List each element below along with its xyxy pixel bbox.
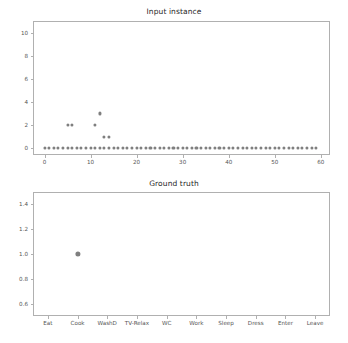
data-point bbox=[282, 147, 285, 150]
data-point bbox=[130, 147, 133, 150]
panel-ground-truth: Ground truth 0.60.81.01.21.4EatCookWashD… bbox=[0, 172, 348, 343]
x-tick-label: Sleep bbox=[218, 320, 234, 326]
x-tick-mark bbox=[285, 316, 286, 319]
y-tick-mark bbox=[31, 204, 34, 205]
data-point bbox=[126, 147, 129, 150]
data-point bbox=[176, 147, 179, 150]
data-point bbox=[301, 147, 304, 150]
data-point bbox=[167, 147, 170, 150]
data-point bbox=[144, 147, 147, 150]
x-tick-label: Cook bbox=[71, 320, 85, 326]
data-point bbox=[195, 147, 198, 150]
data-point bbox=[213, 147, 216, 150]
x-tick-mark bbox=[167, 316, 168, 319]
data-point bbox=[315, 147, 318, 150]
x-tick-mark bbox=[137, 155, 138, 158]
x-tick-label: WashD bbox=[98, 320, 117, 326]
data-point bbox=[98, 112, 101, 115]
x-tick-label: WC bbox=[162, 320, 171, 326]
y-tick-label: 0.8 bbox=[19, 276, 28, 282]
x-tick-mark bbox=[137, 316, 138, 319]
data-point bbox=[292, 147, 295, 150]
x-tick-label: 60 bbox=[317, 159, 324, 165]
x-tick-mark bbox=[315, 316, 316, 319]
x-tick-mark bbox=[229, 155, 230, 158]
data-point bbox=[98, 147, 101, 150]
scatter-layer-ground-truth: 0.60.81.01.21.4EatCookWashDTV-RelaxWCWor… bbox=[0, 172, 348, 343]
data-point bbox=[75, 147, 78, 150]
x-tick-mark bbox=[45, 155, 46, 158]
data-point bbox=[80, 147, 83, 150]
data-point bbox=[163, 147, 166, 150]
data-point bbox=[310, 147, 313, 150]
x-tick-mark bbox=[48, 316, 49, 319]
y-tick-label: 1.4 bbox=[19, 201, 28, 207]
y-tick-label: 1.0 bbox=[19, 251, 28, 257]
data-point bbox=[236, 147, 239, 150]
y-tick-mark bbox=[31, 279, 34, 280]
data-point bbox=[218, 147, 221, 150]
x-tick-label: 50 bbox=[271, 159, 278, 165]
data-point bbox=[48, 147, 51, 150]
y-tick-label: 4 bbox=[24, 99, 28, 105]
y-tick-mark bbox=[31, 148, 34, 149]
y-tick-label: 0 bbox=[24, 145, 28, 151]
x-tick-mark bbox=[321, 155, 322, 158]
data-point bbox=[107, 147, 110, 150]
data-point bbox=[66, 123, 69, 126]
data-point bbox=[103, 147, 106, 150]
data-point bbox=[94, 123, 97, 126]
data-point bbox=[190, 147, 193, 150]
x-tick-label: Dress bbox=[248, 320, 264, 326]
data-point bbox=[259, 147, 262, 150]
y-tick-label: 6 bbox=[24, 76, 28, 82]
data-point bbox=[209, 147, 212, 150]
y-tick-label: 1.2 bbox=[19, 226, 28, 232]
data-point bbox=[61, 147, 64, 150]
x-tick-mark bbox=[183, 155, 184, 158]
data-point bbox=[264, 147, 267, 150]
y-tick-label: 10 bbox=[21, 30, 28, 36]
data-point bbox=[255, 147, 258, 150]
data-point bbox=[296, 147, 299, 150]
data-point bbox=[186, 147, 189, 150]
data-point bbox=[158, 147, 161, 150]
data-point bbox=[250, 147, 253, 150]
y-tick-mark bbox=[31, 254, 34, 255]
data-point bbox=[135, 147, 138, 150]
data-point bbox=[246, 147, 249, 150]
data-point bbox=[278, 147, 281, 150]
x-tick-label: 10 bbox=[87, 159, 94, 165]
x-tick-label: 40 bbox=[225, 159, 232, 165]
y-tick-mark bbox=[31, 125, 34, 126]
x-tick-mark bbox=[91, 155, 92, 158]
data-point bbox=[232, 147, 235, 150]
data-point bbox=[103, 135, 106, 138]
x-tick-label: Work bbox=[189, 320, 203, 326]
data-point bbox=[204, 147, 207, 150]
y-tick-label: 8 bbox=[24, 53, 28, 59]
data-point bbox=[149, 147, 152, 150]
y-tick-mark bbox=[31, 229, 34, 230]
y-tick-mark bbox=[31, 56, 34, 57]
data-point bbox=[140, 147, 143, 150]
x-tick-mark bbox=[196, 316, 197, 319]
data-point bbox=[66, 147, 69, 150]
data-point bbox=[57, 147, 60, 150]
data-point bbox=[273, 147, 276, 150]
data-point bbox=[71, 123, 74, 126]
x-tick-mark bbox=[256, 316, 257, 319]
data-point bbox=[181, 147, 184, 150]
y-tick-mark bbox=[31, 304, 34, 305]
data-point bbox=[223, 147, 226, 150]
x-tick-mark bbox=[78, 316, 79, 319]
data-point bbox=[227, 147, 230, 150]
x-tick-label: Enter bbox=[278, 320, 293, 326]
y-tick-mark bbox=[31, 102, 34, 103]
data-point bbox=[89, 147, 92, 150]
x-tick-label: 0 bbox=[43, 159, 47, 165]
x-tick-label: TV-Relax bbox=[125, 320, 149, 326]
data-point bbox=[117, 147, 120, 150]
data-point bbox=[121, 147, 124, 150]
x-tick-label: Eat bbox=[43, 320, 52, 326]
